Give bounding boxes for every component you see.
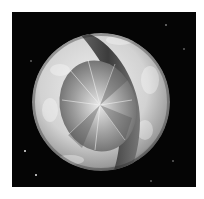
planet-illustration bbox=[0, 0, 204, 199]
